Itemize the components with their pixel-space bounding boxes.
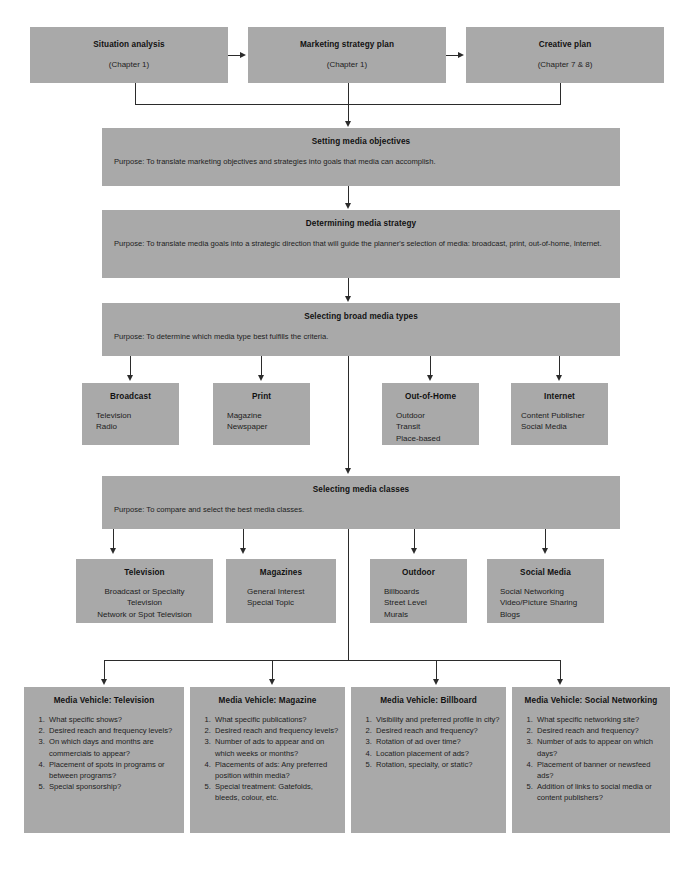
list-item: Rotation, specialty, or static? bbox=[374, 759, 500, 770]
arrow-into-class-television bbox=[110, 548, 116, 554]
arrow-into-print bbox=[258, 375, 264, 381]
clipped-caption-remnant bbox=[0, 0, 695, 6]
connector-stem-internet bbox=[559, 356, 560, 377]
list-item: Number of ads to appear on which days? bbox=[535, 736, 664, 758]
node-title: Media Vehicle: Social Networking bbox=[518, 696, 664, 706]
node-items: Outdoor Transit Place-based bbox=[382, 410, 479, 445]
node-title: Print bbox=[213, 392, 310, 402]
list-item: What specific publications? bbox=[213, 714, 339, 725]
node-title: Magazines bbox=[226, 568, 336, 578]
list-item: Number of ads to appear and on which wee… bbox=[213, 736, 339, 758]
node-selecting-broad-media-types: Selecting broad media types Purpose: To … bbox=[102, 303, 620, 356]
question-list: What specific publications? Desired reac… bbox=[196, 714, 339, 804]
list-item: Place-based bbox=[396, 433, 479, 445]
connector-stem-vehicle-magazine bbox=[272, 660, 273, 681]
node-title: Broadcast bbox=[82, 392, 179, 402]
node-title: Media Vehicle: Billboard bbox=[357, 696, 500, 706]
list-item: Television bbox=[96, 410, 179, 422]
question-list: What specific shows? Desired reach and f… bbox=[30, 714, 178, 793]
list-item: Television bbox=[76, 597, 213, 609]
arrow-into-class-magazines bbox=[240, 548, 246, 554]
node-title: Out-of-Home bbox=[382, 392, 479, 402]
connector-vehicle-bus bbox=[104, 660, 560, 661]
connector-stem-out-of-home bbox=[430, 356, 431, 377]
node-items: Television Radio bbox=[82, 410, 179, 433]
node-purpose: Purpose: To compare and select the best … bbox=[114, 504, 608, 515]
node-broad-type-print: Print Magazine Newspaper bbox=[213, 383, 310, 445]
list-item: Broadcast or Specialty bbox=[76, 586, 213, 598]
arrow-into-internet bbox=[556, 375, 562, 381]
arrow-marketing-to-creative bbox=[458, 52, 464, 58]
list-item: What specific networking site? bbox=[535, 714, 664, 725]
list-item: Video/Picture Sharing bbox=[500, 597, 604, 609]
list-item: Desired reach and frequency? bbox=[374, 725, 500, 736]
node-marketing-strategy-plan: Marketing strategy plan (Chapter 1) bbox=[248, 27, 446, 83]
node-items: Magazine Newspaper bbox=[213, 410, 310, 433]
list-item: Rotation of ad over time? bbox=[374, 736, 500, 747]
connector-spine-classes-to-vehicles bbox=[348, 529, 349, 660]
list-item: Desired reach and frequency levels? bbox=[47, 725, 178, 736]
list-item: Addition of links to social media or con… bbox=[535, 781, 664, 803]
list-item: Special sponsorship? bbox=[47, 781, 178, 792]
node-title: Situation analysis bbox=[93, 40, 164, 50]
node-items: Social Networking Video/Picture Sharing … bbox=[487, 586, 604, 621]
connector-stem-class-television bbox=[113, 529, 114, 550]
node-purpose: Purpose: To translate marketing objectiv… bbox=[114, 156, 608, 167]
list-item: Social Networking bbox=[500, 586, 604, 598]
connector-drop-situation bbox=[135, 83, 136, 104]
node-subtitle: (Chapter 1) bbox=[109, 60, 149, 70]
node-title: Determining media strategy bbox=[114, 219, 608, 229]
connector-strategy-to-broad-types bbox=[348, 278, 349, 298]
arrow-situation-to-marketing bbox=[240, 52, 246, 58]
arrow-into-selecting-media-classes bbox=[345, 468, 351, 474]
list-item: General Interest bbox=[247, 586, 336, 598]
node-broad-type-broadcast: Broadcast Television Radio bbox=[82, 383, 179, 445]
list-item: Network or Spot Television bbox=[76, 609, 213, 621]
list-item: Placement of banner or newsfeed ads? bbox=[535, 759, 664, 781]
node-broad-type-internet: Internet Content Publisher Social Media bbox=[511, 383, 608, 445]
connector-drop-marketing bbox=[348, 83, 349, 104]
list-item: Outdoor bbox=[396, 410, 479, 422]
node-title: Social Media bbox=[487, 568, 604, 578]
node-media-vehicle-billboard: Media Vehicle: Billboard Visibility and … bbox=[351, 687, 506, 833]
connector-stem-vehicle-social-networking bbox=[560, 660, 561, 681]
connector-stem-class-social-media bbox=[545, 529, 546, 550]
list-item: Desired reach and frequency levels? bbox=[213, 725, 339, 736]
list-item: What specific shows? bbox=[47, 714, 178, 725]
arrow-into-determining-media-strategy bbox=[345, 203, 351, 209]
node-purpose: Purpose: To determine which media type b… bbox=[114, 331, 608, 342]
connector-stem-vehicle-billboard bbox=[436, 660, 437, 681]
node-subtitle: (Chapter 7 & 8) bbox=[538, 60, 593, 70]
list-item: Placement of spots in programs or betwee… bbox=[47, 759, 178, 781]
node-items: General Interest Special Topic bbox=[226, 586, 336, 609]
question-list: Visibility and preferred profile in city… bbox=[357, 714, 500, 770]
arrow-into-vehicle-television bbox=[101, 679, 107, 685]
node-situation-analysis: Situation analysis (Chapter 1) bbox=[30, 27, 228, 83]
list-item: Blogs bbox=[500, 609, 604, 621]
connector-stem-class-outdoor bbox=[414, 529, 415, 550]
node-media-class-social-media: Social Media Social Networking Video/Pic… bbox=[487, 559, 604, 623]
node-items: Content Publisher Social Media bbox=[511, 410, 608, 433]
node-media-vehicle-television: Media Vehicle: Television What specific … bbox=[24, 687, 184, 833]
node-determining-media-strategy: Determining media strategy Purpose: To t… bbox=[102, 210, 620, 278]
node-media-vehicle-magazine: Media Vehicle: Magazine What specific pu… bbox=[190, 687, 345, 833]
arrow-into-vehicle-billboard bbox=[433, 679, 439, 685]
list-item: Street Level bbox=[384, 597, 467, 609]
node-media-class-magazines: Magazines General Interest Special Topic bbox=[226, 559, 336, 623]
list-item: On which days and months are commercials… bbox=[47, 736, 178, 758]
list-item: Content Publisher bbox=[521, 410, 608, 422]
node-selecting-media-classes: Selecting media classes Purpose: To comp… bbox=[102, 476, 620, 529]
arrow-into-vehicle-magazine bbox=[269, 679, 275, 685]
list-item: Social Media bbox=[521, 421, 608, 433]
arrow-into-class-social-media bbox=[542, 548, 548, 554]
node-creative-plan: Creative plan (Chapter 7 & 8) bbox=[466, 27, 664, 83]
list-item: Transit bbox=[396, 421, 479, 433]
list-item: Desired reach and frequency? bbox=[535, 725, 664, 736]
node-title: Media Vehicle: Magazine bbox=[196, 696, 339, 706]
connector-stem-broadcast bbox=[130, 356, 131, 377]
node-title: Television bbox=[76, 568, 213, 578]
list-item: Placements of ads: Any preferred positio… bbox=[213, 759, 339, 781]
connector-drop-creative bbox=[560, 83, 561, 104]
node-media-class-television: Television Broadcast or Specialty Televi… bbox=[76, 559, 213, 623]
node-media-vehicle-social-networking: Media Vehicle: Social Networking What sp… bbox=[512, 687, 670, 833]
